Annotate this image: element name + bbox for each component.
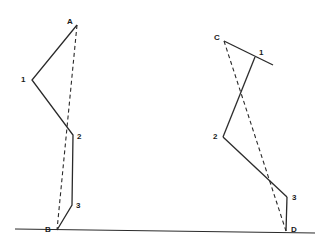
label-right-C: C xyxy=(214,34,220,42)
right-limb-segment xyxy=(223,137,287,197)
label-left-1: 1 xyxy=(21,76,25,84)
label-left-2: 2 xyxy=(77,133,81,141)
label-right-2: 2 xyxy=(213,133,217,141)
label-right-3: 3 xyxy=(292,194,296,202)
left-limb-segments xyxy=(32,25,77,230)
label-right-1: 1 xyxy=(259,49,263,57)
left-figure xyxy=(32,25,77,230)
stance-diagram xyxy=(0,0,326,240)
right-limb-segment xyxy=(224,41,273,65)
label-left-3: 3 xyxy=(76,202,80,210)
right-reference-dashed-line xyxy=(224,41,286,231)
right-limb-segment xyxy=(286,197,287,231)
label-left-B: B xyxy=(45,226,51,234)
ground-line xyxy=(15,229,315,233)
right-figure xyxy=(223,41,287,231)
label-left-A: A xyxy=(67,18,73,26)
label-right-D: D xyxy=(291,226,297,234)
right-limb-segment xyxy=(223,57,255,137)
